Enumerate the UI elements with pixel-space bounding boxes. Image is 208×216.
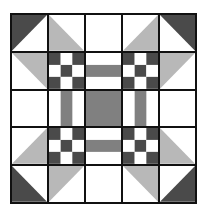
quilt-cell-blank	[160, 91, 195, 127]
quilt-cell-half-triangle	[49, 15, 84, 51]
quilt-cell-half-triangle	[160, 15, 195, 51]
quilt-cell-blank	[86, 15, 121, 51]
quilt-cell-half-triangle	[160, 128, 195, 164]
quilt-block	[10, 13, 197, 204]
quilt-cell-half-triangle	[123, 166, 158, 202]
quilt-cell-blank	[12, 91, 47, 127]
quilt-cell-h-strip	[86, 128, 121, 164]
quilt-cell-half-triangle	[12, 128, 47, 164]
quilt-cell-half-triangle	[160, 166, 195, 202]
quilt-cell-nine-patch	[123, 128, 158, 164]
quilt-cell-v-strip	[123, 91, 158, 127]
quilt-cell-half-triangle	[49, 166, 84, 202]
quilt-cell-v-strip	[49, 91, 84, 127]
quilt-cell-half-triangle	[160, 53, 195, 89]
quilt-cell-half-triangle	[12, 166, 47, 202]
quilt-cell-half-triangle	[123, 15, 158, 51]
quilt-cell-blank	[86, 166, 121, 202]
quilt-cell-nine-patch	[123, 53, 158, 89]
quilt-cell-solid	[86, 91, 121, 127]
quilt-cell-h-strip	[86, 53, 121, 89]
quilt-cell-nine-patch	[49, 53, 84, 89]
quilt-cell-half-triangle	[12, 15, 47, 51]
quilt-cell-nine-patch	[49, 128, 84, 164]
quilt-cell-half-triangle	[12, 53, 47, 89]
